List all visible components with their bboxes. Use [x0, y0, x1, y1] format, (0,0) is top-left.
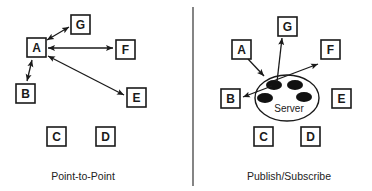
node-f: F: [116, 40, 135, 59]
pubsub-node-g: G: [278, 17, 297, 36]
edge-a-b: [27, 60, 32, 81]
node-d-label: D: [101, 130, 110, 144]
pubsub-node-a: A: [232, 40, 251, 59]
pubsub-node-d: D: [301, 127, 320, 146]
server-slot-3: [257, 93, 273, 103]
node-f-label: F: [122, 43, 129, 57]
edge-a-e: [48, 56, 124, 95]
server-slot-4: [296, 92, 312, 102]
node-c: C: [47, 127, 66, 146]
pubsub-node-d-label: D: [306, 130, 315, 144]
pubsub-node-b: B: [221, 89, 240, 108]
messaging-models-diagram: A G F B E C D Poi: [0, 0, 372, 191]
server: Server: [255, 75, 319, 121]
publish-subscribe-panel: Server A G F B: [221, 17, 351, 182]
node-c-label: C: [52, 130, 61, 144]
node-g-label: G: [76, 18, 85, 32]
node-g: G: [71, 15, 90, 34]
pubsub-node-c: C: [254, 127, 273, 146]
node-a-label: A: [32, 41, 41, 55]
pubsub-node-f-label: F: [327, 43, 334, 57]
pubsub-node-e-label: E: [337, 92, 345, 106]
node-b: B: [16, 84, 35, 103]
edge-a-server: [248, 59, 264, 76]
server-label: Server: [274, 103, 304, 114]
pubsub-node-f: F: [321, 40, 340, 59]
node-d: D: [96, 127, 115, 146]
pubsub-node-c-label: C: [259, 130, 268, 144]
publish-subscribe-caption: Publish/Subscribe: [247, 170, 331, 182]
node-e-label: E: [132, 91, 140, 105]
pubsub-node-b-label: B: [226, 92, 235, 106]
pubsub-node-g-label: G: [283, 20, 292, 34]
server-slot-2: [287, 80, 303, 90]
node-b-label: B: [21, 87, 30, 101]
node-e: E: [127, 88, 146, 107]
point-to-point-panel: A G F B E C D Poi: [16, 15, 146, 182]
pubsub-node-e: E: [332, 89, 351, 108]
edge-a-g: [47, 27, 69, 40]
point-to-point-caption: Point-to-Point: [51, 170, 115, 182]
server-slot-1: [266, 80, 282, 90]
pubsub-node-a-label: A: [237, 43, 246, 57]
node-a: A: [27, 38, 46, 57]
